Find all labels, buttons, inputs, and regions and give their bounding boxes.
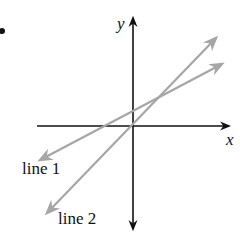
line-1-label: line 1: [22, 159, 60, 178]
y-axis-label: y: [115, 14, 125, 33]
line-1: [40, 64, 222, 160]
coordinate-plane-figure: y x line 1 line 2: [0, 0, 240, 234]
line-2-label: line 2: [58, 209, 96, 228]
x-axis-label: x: [225, 130, 234, 149]
bullet-dot: [0, 28, 5, 34]
